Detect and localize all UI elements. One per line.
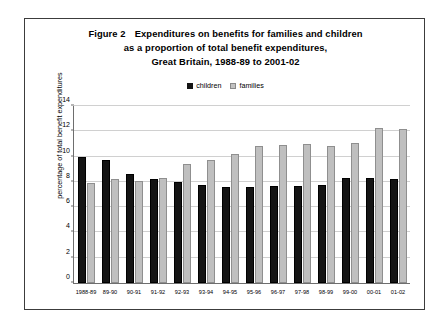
bar-children [78,157,86,283]
bar-children [342,178,350,283]
bar-children [150,179,158,283]
x-tick-label: 96-97 [271,289,285,295]
bar-children [366,178,374,283]
bar-children [270,186,278,283]
plot-area: 02468101214 1988-8989-9090-9191-9292-939… [73,106,410,284]
bar-children [174,182,182,283]
bar-group: 99-00 [338,106,362,283]
figure-page: Figure 2Expenditures on benefits for fam… [0,0,442,330]
bar-children [102,160,110,283]
y-tick-label-2: 2 [66,247,70,254]
x-tick-label: 01-02 [391,289,405,295]
x-tick-label: 00-01 [367,289,381,295]
bar-group: 95-96 [242,106,266,283]
y-tick-label-12: 12 [62,121,70,128]
y-tick-label-10: 10 [62,146,70,153]
bar-children [294,186,302,283]
x-tick-label: 92-93 [175,289,189,295]
y-tick-label-8: 8 [66,171,70,178]
bar-families [303,144,311,283]
x-tick-label: 97-98 [295,289,309,295]
y-tick-label-0: 0 [66,273,70,280]
bar-families [135,181,143,283]
x-tick-label: 94-95 [223,289,237,295]
bar-group: 1988-89 [74,106,98,283]
bar-group: 93-94 [194,106,218,283]
x-tick-label: 89-90 [103,289,117,295]
bar-families [159,178,167,283]
y-tick-label-14: 14 [62,96,70,103]
bar-families [351,143,359,283]
bar-children [246,187,254,283]
bar-group: 90-91 [122,106,146,283]
x-tick-label: 91-92 [151,289,165,295]
bar-families [183,164,191,283]
bar-families [327,146,335,283]
bar-families [375,128,383,284]
bar-families [111,179,119,283]
bar-children [390,179,398,283]
y-tick-label-6: 6 [66,197,70,204]
bar-children [198,185,206,283]
x-tick-label: 95-96 [247,289,261,295]
x-tick-label: 1988-89 [76,289,97,295]
y-tick-label-4: 4 [66,222,70,229]
bar-children [126,174,134,283]
bar-families [207,160,215,283]
bar-families [279,145,287,283]
bar-families [255,146,263,283]
x-tick-label: 93-94 [199,289,213,295]
bar-children [318,185,326,283]
bar-group: 98-99 [314,106,338,283]
figure-border-box: Figure 2Expenditures on benefits for fam… [24,18,425,310]
bar-group: 89-90 [98,106,122,283]
bar-children [222,187,230,283]
bar-group: 97-98 [290,106,314,283]
plot-wrapper: percentage of total benefit expenditures… [25,19,426,311]
bar-families [231,154,239,283]
y-axis-label: percentage of total benefit expenditures [55,56,64,216]
x-tick-label: 99-00 [343,289,357,295]
x-tick-label: 90-91 [127,289,141,295]
bar-group: 00-01 [362,106,386,283]
bar-group: 96-97 [266,106,290,283]
x-tick-label: 98-99 [319,289,333,295]
bar-group: 01-02 [386,106,410,283]
bar-families [87,183,95,283]
bar-group: 92-93 [170,106,194,283]
bar-families [399,129,407,283]
bar-groups: 1988-8989-9090-9191-9292-9393-9494-9595-… [74,106,410,283]
bar-group: 94-95 [218,106,242,283]
bar-group: 91-92 [146,106,170,283]
